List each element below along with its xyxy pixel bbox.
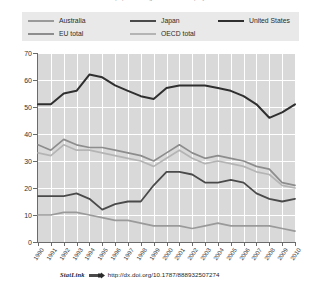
legend-swatch-united-states (218, 20, 244, 22)
x-axis-tick (244, 243, 245, 246)
statlink-chain-icon (89, 265, 105, 283)
legend-label-japan: Japan (161, 14, 180, 27)
chart-figure: Share of population aged 55-64 in employ… (0, 0, 309, 288)
legend-item-united-states[interactable]: United States (218, 14, 290, 27)
x-axis-tick (154, 243, 155, 246)
statlink-url[interactable]: http://dx.doi.org/10.1787/888932507274 (108, 271, 220, 278)
x-axis-tick (77, 243, 78, 246)
series-lines (38, 53, 296, 242)
figure-title-cropped: Share of population aged 55-64 in employ… (0, 0, 309, 9)
y-axis-label: 70 (2, 50, 32, 57)
plot-area (38, 53, 296, 242)
y-axis-label: 10 (2, 212, 32, 219)
x-axis-tick (179, 243, 180, 246)
legend-item-australia[interactable]: Australia (28, 14, 85, 27)
legend-row-bottom: EU total OECD total (22, 27, 299, 40)
x-axis-tick (205, 243, 206, 246)
chart-legend: Australia Japan United States EU total O… (22, 12, 299, 41)
y-axis-label: 0 (2, 239, 32, 246)
legend-item-oecd-total[interactable]: OECD total (130, 27, 195, 40)
series-line-eu-total (38, 139, 295, 185)
legend-item-japan[interactable]: Japan (130, 14, 180, 27)
x-axis-tick (89, 243, 90, 246)
legend-swatch-australia (28, 20, 54, 22)
statlink-footer: StatLink http://dx.doi.org/10.1787/88893… (60, 268, 305, 280)
y-axis-label: 60 (2, 77, 32, 84)
x-axis-tick (192, 243, 193, 246)
x-axis-tick (256, 243, 257, 246)
series-line-united-states (38, 75, 295, 118)
y-axis-label: 40 (2, 131, 32, 138)
x-axis-tick (102, 243, 103, 246)
y-axis-label: 30 (2, 158, 32, 165)
legend-label-united-states: United States (249, 14, 290, 27)
x-axis-tick (167, 243, 168, 246)
statlink-label: StatLink (60, 271, 85, 278)
series-line-japan (38, 172, 295, 210)
legend-swatch-eu-total (28, 33, 54, 35)
x-axis-tick (51, 243, 52, 246)
x-axis-tick (295, 243, 296, 246)
x-axis-tick (269, 243, 270, 246)
figure-title-text: Share of population aged 55-64 in employ… (0, 0, 309, 1)
x-axis-tick (38, 243, 39, 246)
x-axis-tick (115, 243, 116, 246)
legend-swatch-japan (130, 20, 156, 22)
series-line-australia (38, 212, 295, 231)
legend-swatch-oecd-total (130, 33, 156, 35)
x-axis-tick (282, 243, 283, 246)
legend-label-australia: Australia (59, 14, 85, 27)
x-axis-tick (128, 243, 129, 246)
x-axis-tick (64, 243, 65, 246)
x-axis-tick (231, 243, 232, 246)
y-axis-label: 20 (2, 185, 32, 192)
legend-item-eu-total[interactable]: EU total (28, 27, 83, 40)
x-axis-tick (141, 243, 142, 246)
y-axis-label: 50 (2, 104, 32, 111)
legend-label-oecd-total: OECD total (161, 27, 195, 40)
legend-label-eu-total: EU total (59, 27, 83, 40)
legend-row-top: Australia Japan United States (22, 14, 299, 27)
x-axis-tick (218, 243, 219, 246)
